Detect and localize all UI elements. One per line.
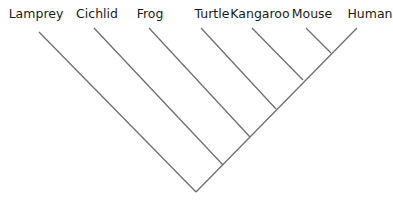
taxon-label-human: Human <box>347 6 392 21</box>
branch-frog <box>149 28 250 137</box>
taxon-label-frog: Frog <box>137 6 164 21</box>
branch-cichlid <box>94 28 223 165</box>
taxon-label-turtle: Turtle <box>195 6 230 21</box>
taxon-label-cichlid: Cichlid <box>76 6 118 21</box>
taxon-label-mouse: Mouse <box>292 6 333 21</box>
taxon-label-lamprey: Lamprey <box>9 6 64 21</box>
branch-mouse <box>306 28 331 53</box>
branch-kangaroo <box>252 28 303 80</box>
taxon-label-kangaroo: Kangaroo <box>230 6 289 21</box>
